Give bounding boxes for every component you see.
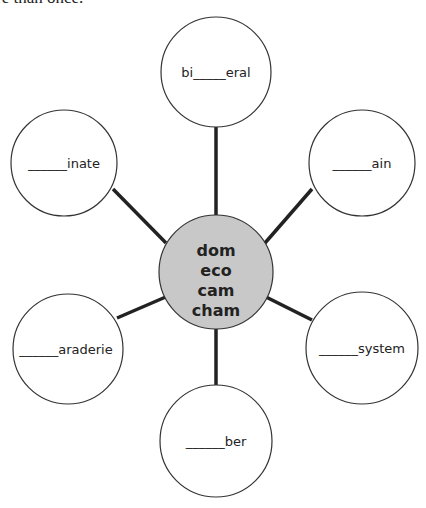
word-web-diagram: dom eco cam cham bi_____eral ______inate… xyxy=(0,0,426,508)
connector-top-left xyxy=(113,189,166,243)
hub-root-1: eco xyxy=(200,261,231,280)
spoke-word-top-right: ______ain xyxy=(332,156,392,171)
spoke-word-bottom: ______ber xyxy=(185,434,247,449)
spoke-word-bottom-left: ______araderie xyxy=(18,342,112,357)
hub-root-3: cham xyxy=(192,301,240,320)
connector-bottom-left xyxy=(117,296,168,318)
spoke-word-top: bi_____eral xyxy=(181,65,250,80)
hub-root-2: cam xyxy=(198,281,235,300)
spoke-word-top-left: ______inate xyxy=(27,156,100,171)
connector-bottom-right xyxy=(264,296,312,320)
connector-top-right xyxy=(265,189,312,243)
spoke-word-bottom-right: ______system xyxy=(318,341,405,356)
hub-root-0: dom xyxy=(196,241,235,260)
